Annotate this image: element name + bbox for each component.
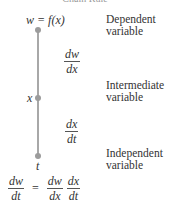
bottom-node-label-line1: Independent <box>106 147 163 159</box>
upper-derivative: dw dx <box>64 48 80 75</box>
top-node-label-line2: variable <box>106 25 156 37</box>
lower-derivative-denominator: dt <box>66 132 77 145</box>
bottom-node-label-line2: variable <box>106 159 163 171</box>
chain-rule-equation: dw dt = dw dx dx dt <box>8 175 80 201</box>
upper-derivative-numerator: dw <box>64 48 80 61</box>
rhs-first-denominator: dx <box>48 189 61 201</box>
bottom-node-expression: t <box>36 159 39 174</box>
equation-rhs-second: dx dt <box>67 175 80 201</box>
equals-sign: = <box>28 181 43 196</box>
rhs-second-numerator: dx <box>67 175 80 188</box>
lhs-denominator: dt <box>10 189 21 201</box>
upper-derivative-denominator: dx <box>65 62 78 75</box>
diagram-title: Chain Rule <box>0 0 170 4</box>
lower-derivative-numerator: dx <box>65 118 78 131</box>
equation-rhs-first: dw dx <box>47 175 63 201</box>
middle-node-label: Intermediate variable <box>106 79 164 103</box>
rhs-second-denominator: dt <box>68 189 79 201</box>
lhs-numerator: dw <box>8 175 24 188</box>
bottom-node-label: Independent variable <box>106 147 163 171</box>
rhs-first-numerator: dw <box>47 175 63 188</box>
top-node-label: Dependent variable <box>106 13 156 37</box>
top-node-expression: w = f(x) <box>26 13 65 28</box>
middle-node-dot <box>35 95 41 101</box>
middle-node-label-line1: Intermediate <box>106 79 164 91</box>
lower-derivative: dx dt <box>65 118 78 145</box>
middle-node-expression: x <box>27 91 32 106</box>
top-node-label-line1: Dependent <box>106 13 156 25</box>
dependency-line <box>37 30 39 157</box>
middle-node-label-line2: variable <box>106 91 164 103</box>
equation-lhs: dw dt <box>8 175 24 201</box>
